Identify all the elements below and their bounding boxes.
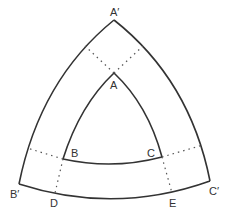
- label-c-prime: C′: [209, 185, 219, 197]
- connector-c-right: [162, 145, 203, 157]
- outer-edge-bottom: [19, 181, 210, 199]
- dotted-connectors: [27, 46, 203, 193]
- outer-triangle: [19, 20, 210, 199]
- spherical-triangle-diagram: A′ A B C B′ C′ D E: [0, 0, 231, 217]
- label-a: A: [110, 79, 118, 91]
- label-e: E: [169, 197, 176, 209]
- label-d: D: [50, 197, 58, 209]
- connector-a-right: [114, 46, 143, 73]
- connector-c-e: [162, 157, 172, 193]
- label-b-prime: B′: [10, 188, 19, 200]
- label-b: B: [71, 147, 78, 159]
- inner-edge-right: [114, 73, 162, 157]
- label-c: C: [147, 147, 155, 159]
- connector-a-left: [85, 46, 114, 73]
- connector-b-left: [27, 148, 63, 159]
- label-a-prime: A′: [110, 6, 119, 18]
- connector-b-d: [55, 159, 63, 193]
